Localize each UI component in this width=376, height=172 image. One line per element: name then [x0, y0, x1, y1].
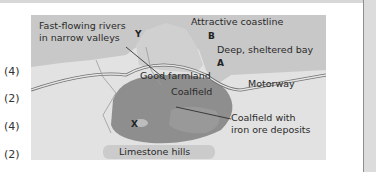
point-y: Y: [134, 29, 142, 39]
label-coastline: Attractive coastline: [191, 16, 283, 27]
top-border: [0, 0, 375, 3]
point-x: X: [131, 119, 138, 129]
mark-label: (2): [4, 148, 20, 161]
label-rivers: Fast-flowing rivers: [39, 20, 126, 31]
label-rivers: in narrow valleys: [39, 32, 120, 43]
scrollbar[interactable]: [363, 0, 376, 172]
mark-label: (4): [4, 65, 20, 78]
label-bay: Deep, sheltered bay: [217, 44, 314, 55]
point-b: B: [208, 31, 215, 41]
label-coalfield: Coalfield: [171, 86, 212, 97]
label-farmland: Good farmland: [140, 70, 211, 81]
label-coal-iron: iron ore deposits: [231, 124, 311, 135]
label-coal-iron: Coalfield with: [231, 112, 296, 123]
label-motorway: Motorway: [248, 78, 295, 89]
map-diagram: Fast-flowing rivers in narrow valleys At…: [31, 15, 326, 172]
label-limestone: Limestone hills: [119, 146, 190, 157]
mark-label: (4): [4, 120, 20, 133]
mark-label: (2): [4, 92, 20, 105]
point-a: A: [217, 58, 224, 68]
